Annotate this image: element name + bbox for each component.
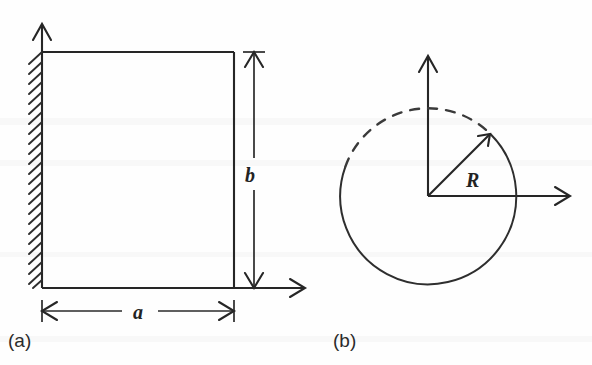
circle-dashed-arc (345, 108, 490, 167)
panel-b-vertical-axis (419, 56, 437, 196)
dimension-a: a (42, 300, 234, 323)
caption-panel-a: (a) (8, 330, 31, 351)
height-label: b (245, 164, 255, 186)
caption-panel-b: (b) (333, 330, 356, 351)
panel-a: a b (a) (8, 24, 305, 351)
radius-label: R (465, 169, 479, 191)
figure-container: a b (a) (0, 0, 592, 365)
panel-b-horizontal-axis (428, 187, 570, 205)
panel-b: R (b) (333, 56, 570, 351)
width-label: a (133, 301, 143, 323)
technical-diagram: a b (a) (0, 0, 592, 365)
panel-a-horizontal-axis (42, 279, 305, 297)
